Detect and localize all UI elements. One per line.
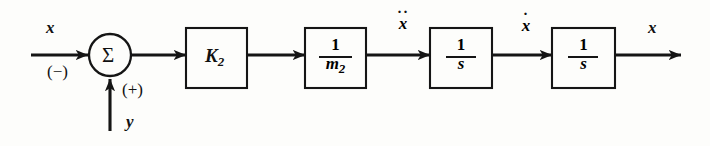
summing-junction-symbol: Σ xyxy=(102,43,114,68)
feedback-sign-label: (+) xyxy=(122,80,143,100)
integrator-block-1-label: 1 s xyxy=(430,28,492,72)
input-sign-label: (−) xyxy=(47,62,68,82)
mass-block-denominator-subscript: 2 xyxy=(339,61,346,76)
velocity-label: · x xyxy=(515,12,537,34)
integrator2-denominator: s xyxy=(552,53,615,72)
mass-block-denominator: m2 xyxy=(305,53,366,75)
integrator1-denominator: s xyxy=(430,53,492,72)
block-diagram-canvas: x (−) Σ (+) y K2 1 m2 1 s 1 s ·· x · x x xyxy=(0,0,710,146)
gain-block-k2-subscript: 2 xyxy=(218,54,225,69)
position-output-label: x xyxy=(648,18,657,38)
mass-block-label: 1 m2 xyxy=(305,28,366,75)
acceleration-base: x xyxy=(392,16,414,32)
gain-block-k2-symbol: K xyxy=(205,45,218,66)
feedback-signal-label: y xyxy=(126,112,134,132)
integrator-block-2-label: 1 s xyxy=(552,28,615,72)
mass-block-numerator: 1 xyxy=(305,28,366,53)
integrator1-numerator: 1 xyxy=(430,28,492,53)
acceleration-label: ·· x xyxy=(392,10,414,32)
input-signal-label: x xyxy=(46,18,55,38)
gain-block-k2-label: K2 xyxy=(205,45,224,70)
mass-block-denominator-symbol: m xyxy=(326,54,339,73)
integrator2-numerator: 1 xyxy=(552,28,615,53)
velocity-base: x xyxy=(515,18,537,34)
